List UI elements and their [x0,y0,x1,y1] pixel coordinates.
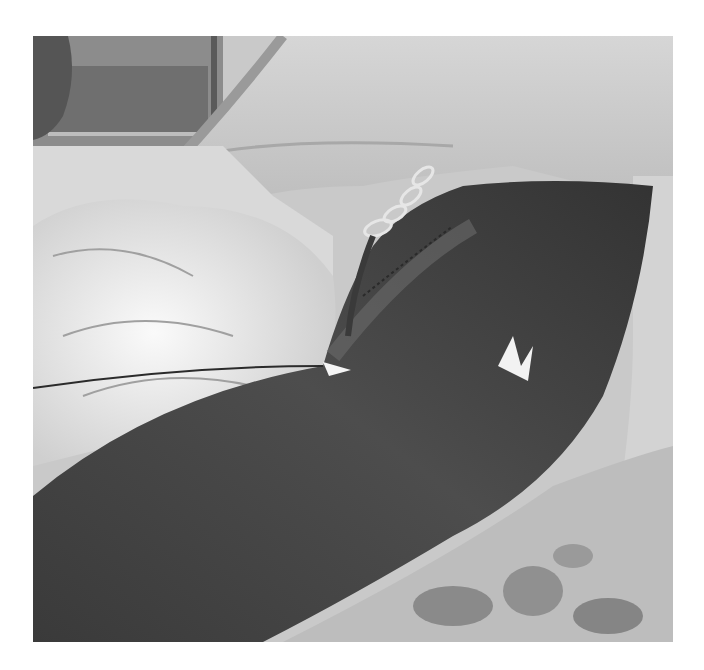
clinical-photo [33,36,673,642]
photo-illustration [33,36,673,642]
